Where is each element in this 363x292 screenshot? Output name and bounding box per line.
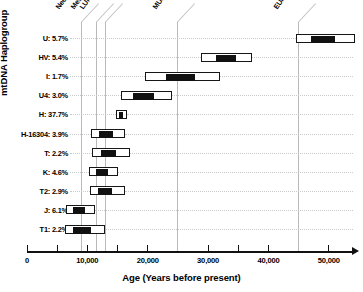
- row-leader-right: [95, 210, 353, 211]
- row-leader-left: [70, 114, 116, 115]
- row-leader-left: [70, 153, 92, 154]
- plot-area: [27, 33, 353, 251]
- row-leader-right: [125, 191, 353, 192]
- row-leader-right: [127, 114, 353, 115]
- range-bar-j: [66, 205, 95, 214]
- row-leader-right: [220, 76, 353, 77]
- x-tick: [268, 245, 269, 251]
- range-bar-hv: [201, 53, 252, 62]
- estimate-bar-t2: [98, 188, 112, 195]
- range-bar-u: [296, 34, 355, 43]
- x-tick-label: 20,000: [137, 256, 159, 265]
- x-tick: [27, 245, 28, 251]
- era-leader-line-eup: [298, 3, 316, 23]
- range-bar-t: [92, 148, 129, 157]
- range-bar-h-16304: [91, 129, 125, 138]
- row-label-t: T: 2.2%: [44, 149, 68, 158]
- x-tick-label: 40,000: [257, 256, 279, 265]
- row-leader-right: [252, 57, 353, 58]
- row-leader-left: [70, 57, 201, 58]
- row-leader-right: [130, 153, 353, 154]
- row-leader-left: [70, 191, 90, 192]
- estimate-bar-t: [101, 150, 117, 157]
- range-bar-t1: [65, 225, 105, 234]
- row-label-k: K: 4.6%: [43, 168, 68, 177]
- row-leader-left: [70, 95, 121, 96]
- estimate-bar-t1: [73, 227, 91, 234]
- row-label-i: I: 1.7%: [46, 72, 68, 81]
- era-leader-line-mup: [177, 3, 195, 23]
- era-leader-line-mesolithic: [96, 3, 114, 23]
- row-leader-left: [70, 38, 296, 39]
- row-label-h-16304: H-16304: 3.9%: [21, 130, 68, 139]
- era-label-mup: MUP: [151, 0, 167, 11]
- x-tick-label: 10,000: [76, 256, 98, 265]
- range-bar-k: [89, 167, 118, 176]
- range-bar-t2: [90, 186, 126, 195]
- estimate-bar-h-16304: [99, 131, 113, 138]
- row-label-h: H: 37.7%: [39, 110, 68, 119]
- x-tick: [87, 245, 88, 251]
- mtdna-haplogroup-age-chart: mtDNA Haplogroup 010,00020,00030,00040,0…: [0, 0, 363, 292]
- estimate-bar-hv: [216, 55, 236, 62]
- x-tick: [147, 245, 148, 251]
- x-tick-label: 50,000: [318, 256, 340, 265]
- estimate-bar-u: [311, 36, 335, 43]
- estimate-bar-j: [73, 207, 85, 214]
- row-label-j: J: 6.1%: [44, 206, 68, 215]
- range-bar-h: [116, 110, 127, 119]
- x-tick: [328, 245, 329, 251]
- estimate-bar-h: [119, 112, 123, 119]
- x-axis-line: [27, 251, 353, 253]
- range-bar-u4: [121, 91, 172, 100]
- x-tick: [117, 245, 118, 251]
- era-leader-line-lup: [105, 3, 123, 23]
- row-label-u4: U4: 3.0%: [39, 91, 68, 100]
- row-label-t2: T2: 2.9%: [40, 187, 68, 196]
- row-leader-right: [118, 172, 353, 173]
- row-leader-right: [105, 229, 353, 230]
- row-label-t1: T1: 2.2%: [40, 225, 68, 234]
- x-tick: [238, 245, 239, 251]
- range-bar-i: [145, 72, 220, 81]
- estimate-bar-k: [96, 169, 107, 176]
- estimate-bar-i: [166, 74, 196, 81]
- x-tick: [208, 245, 209, 251]
- x-tick: [57, 245, 58, 251]
- x-tick-label: 30,000: [197, 256, 219, 265]
- row-label-hv: HV: 5.4%: [38, 53, 68, 62]
- era-label-eup: EUP: [271, 0, 287, 11]
- row-leader-left: [70, 134, 91, 135]
- row-leader-right: [125, 134, 353, 135]
- row-leader-right: [172, 95, 353, 96]
- estimate-bar-u4: [133, 93, 155, 100]
- x-tick-label: 0: [25, 256, 29, 265]
- y-axis-title: mtDNA Haplogroup: [0, 0, 9, 96]
- row-leader-left: [70, 76, 145, 77]
- row-label-u: U: 5.7%: [43, 34, 68, 43]
- x-axis-arrow-icon: [352, 247, 359, 255]
- row-leader-left: [70, 172, 89, 173]
- x-axis-title: Age (Years before present): [0, 272, 363, 283]
